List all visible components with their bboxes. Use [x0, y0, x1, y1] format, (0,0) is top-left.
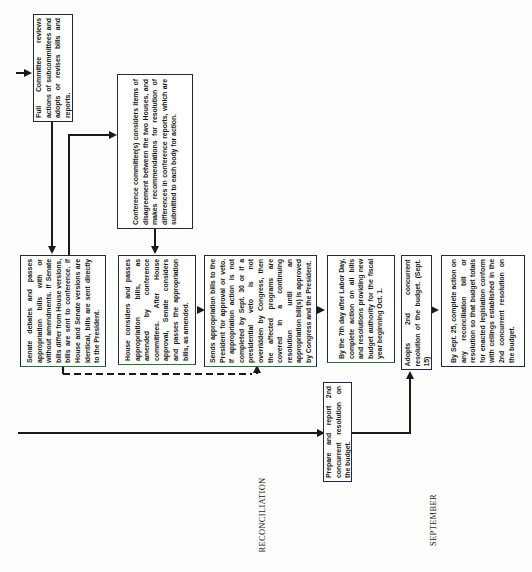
node-senate-debates-text: Senate debates and passes appropriation … [25, 259, 102, 363]
node-sends-to-president-text: Sends appropriation bills to the Preside… [208, 259, 314, 363]
phase-label-september: SEPTEMBER [425, 490, 441, 550]
node-house-considers-text: House considers and passes appropriation… [123, 259, 190, 361]
prepare-to-adopts-arrow [351, 373, 410, 433]
node-sends-to-president: Sends appropriation bills to the Preside… [204, 255, 317, 367]
phase-label-reconciliation: RECONCILIATION [254, 470, 270, 560]
node-conference-committee: Conference committee(s) considers items … [117, 74, 193, 229]
node-full-committee: Full Committee reviews actions of subcom… [33, 14, 73, 122]
node-house-considers: House considers and passes appropriation… [118, 255, 196, 365]
node-adopts-2nd: Adopts 2nd concurrent resolution of the … [401, 255, 432, 370]
budget-process-flowchart: Full Committee reviews actions of subcom… [0, 0, 532, 572]
senate-to-conference-arrow [69, 135, 115, 255]
node-senate-debates: Senate debates and passes appropriation … [20, 255, 106, 367]
node-labor-day: By the 7th day after Labor Day, complete… [327, 255, 395, 363]
node-sept-25-text: By Sept. 25, complete action on any reco… [449, 259, 516, 363]
node-full-committee-text: Full Committee reviews actions of subcom… [34, 18, 72, 118]
node-labor-day-text: By the 7th day after Labor Day, complete… [337, 259, 385, 359]
node-prepare-report: Prepare and report 2nd concurrent resolu… [323, 382, 352, 482]
node-conference-committee-text: Conference committee(s) considers items … [131, 79, 179, 225]
node-sept-25: By Sept. 25, complete action on any reco… [441, 255, 525, 367]
node-adopts-2nd-text: Adopts 2nd concurrent resolution of the … [402, 259, 431, 366]
node-prepare-report-text: Prepare and report 2nd concurrent resolu… [323, 386, 352, 478]
